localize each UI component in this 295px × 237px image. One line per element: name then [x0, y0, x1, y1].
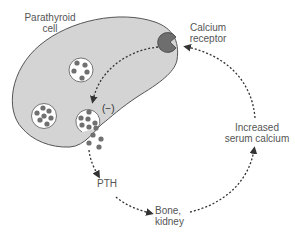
arrow-pth-to-bone [116, 197, 150, 213]
label-line: Bone, [155, 205, 184, 216]
label-inhibition: (−) [102, 103, 115, 114]
label-line: Parathyroid [22, 12, 78, 23]
label-line: receptor [186, 33, 230, 44]
label-calcium-receptor: Calcium receptor [186, 22, 230, 44]
label-pth: PTH [97, 178, 117, 189]
arrow-bone-to-serum [190, 150, 254, 212]
arrow-serum-to-receptor [187, 47, 255, 118]
vesicle-upper [69, 58, 93, 82]
arrow-vesicle-to-pth [89, 150, 98, 175]
label-parathyroid-cell: Parathyroid cell [22, 12, 78, 34]
label-line: kidney [155, 216, 184, 227]
label-line: cell [22, 23, 78, 34]
label-increased-serum-calcium: Increased serum calcium [224, 122, 290, 144]
label-bone-kidney: Bone, kidney [155, 205, 184, 227]
label-line: Increased [224, 122, 290, 133]
label-line: serum calcium [224, 133, 290, 144]
label-line: Calcium [186, 22, 230, 33]
diagram-canvas [0, 0, 295, 237]
vesicle-lower-left [32, 104, 57, 129]
